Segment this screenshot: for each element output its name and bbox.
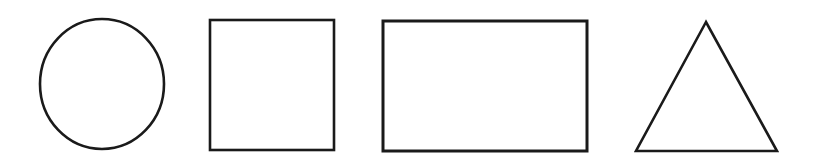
shapes-svg [0, 0, 820, 157]
square-shape [210, 20, 334, 150]
triangle-shape [636, 22, 777, 151]
circle-shape [40, 19, 164, 149]
shapes-figure [0, 0, 820, 157]
rectangle-shape [383, 21, 587, 151]
